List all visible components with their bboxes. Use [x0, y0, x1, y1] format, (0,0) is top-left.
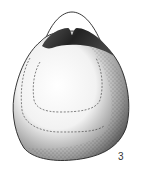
- figure-label: 3: [118, 152, 124, 162]
- specimen-illustration: [0, 0, 143, 176]
